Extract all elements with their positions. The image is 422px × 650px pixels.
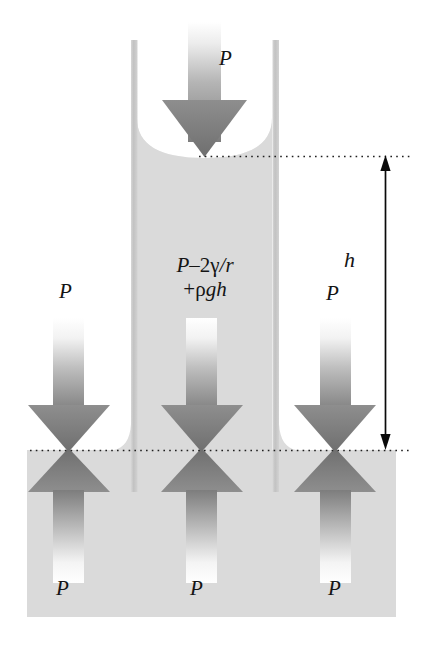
- formula-rho: ρ: [195, 277, 205, 301]
- label-pressure-bottom-middle: P: [190, 578, 203, 599]
- formula-gamma: γ: [210, 253, 219, 277]
- label-height-h: h: [344, 249, 355, 271]
- pressure-arrow-top-down: [162, 22, 247, 157]
- label-pressure-bottom-left: P: [56, 578, 69, 599]
- formula-line-1: P–2γ/r: [130, 254, 280, 278]
- formula-h: h: [216, 277, 227, 301]
- pressure-arrow-left-down: [28, 318, 110, 452]
- formula-g: g: [206, 277, 217, 301]
- formula-line-2: +ρgh: [130, 278, 280, 302]
- label-pressure-top: P: [219, 48, 232, 69]
- capillary-rise-figure: P P P P P P h P–2γ/r +ρgh: [0, 0, 422, 650]
- label-pressure-left: P: [59, 281, 72, 302]
- height-dimension-arrow: [380, 155, 390, 450]
- formula-p: P: [176, 253, 189, 277]
- figure-canvas: [0, 0, 422, 650]
- pressure-arrow-right-down: [294, 318, 376, 452]
- label-pressure-right: P: [326, 283, 339, 304]
- label-pressure-bottom-right: P: [328, 578, 341, 599]
- formula-minus: –: [189, 253, 200, 277]
- tube-pressure-formula: P–2γ/r +ρgh: [130, 254, 280, 301]
- formula-plus: +: [183, 277, 195, 301]
- formula-slash-r: /r: [220, 253, 234, 277]
- formula-two: 2: [200, 253, 211, 277]
